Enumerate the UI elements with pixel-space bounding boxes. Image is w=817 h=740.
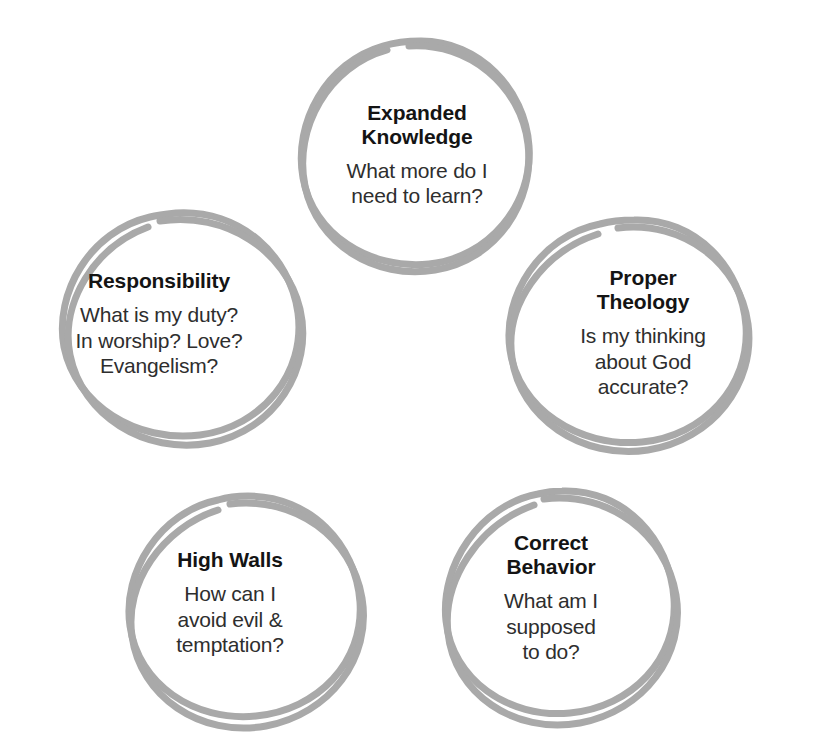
bubble-correct-behavior[interactable]: Correct Behavior What am I supposed to d… xyxy=(428,483,696,735)
bubble-text-block: Responsibility What is my duty? In worsh… xyxy=(48,205,324,455)
bubble-body: What am I supposed to do? xyxy=(504,588,598,665)
bubble-title: Expanded Knowledge xyxy=(361,101,472,149)
bubble-body: What more do I need to learn? xyxy=(347,158,488,209)
diagram-canvas: Expanded Knowledge What more do I need t… xyxy=(0,0,817,740)
bubble-body: How can I avoid evil & temptation? xyxy=(176,581,284,658)
bubble-body: What is my duty? In worship? Love? Evang… xyxy=(75,302,242,379)
bubble-high-walls[interactable]: High Walls How can I avoid evil & tempta… xyxy=(112,488,380,738)
bubble-title: Proper Theology xyxy=(597,266,690,314)
bubble-text-block: Proper Theology Is my thinking about God… xyxy=(488,212,764,464)
bubble-responsibility[interactable]: Responsibility What is my duty? In worsh… xyxy=(48,205,324,455)
bubble-text-block: High Walls How can I avoid evil & tempta… xyxy=(112,488,380,738)
bubble-body: Is my thinking about God accurate? xyxy=(580,323,706,400)
bubble-title: Correct Behavior xyxy=(506,531,595,579)
bubble-title: Responsibility xyxy=(88,269,230,293)
bubble-text-block: Correct Behavior What am I supposed to d… xyxy=(428,483,696,735)
bubble-title: High Walls xyxy=(177,548,283,572)
bubble-proper-theology[interactable]: Proper Theology Is my thinking about God… xyxy=(488,212,764,464)
